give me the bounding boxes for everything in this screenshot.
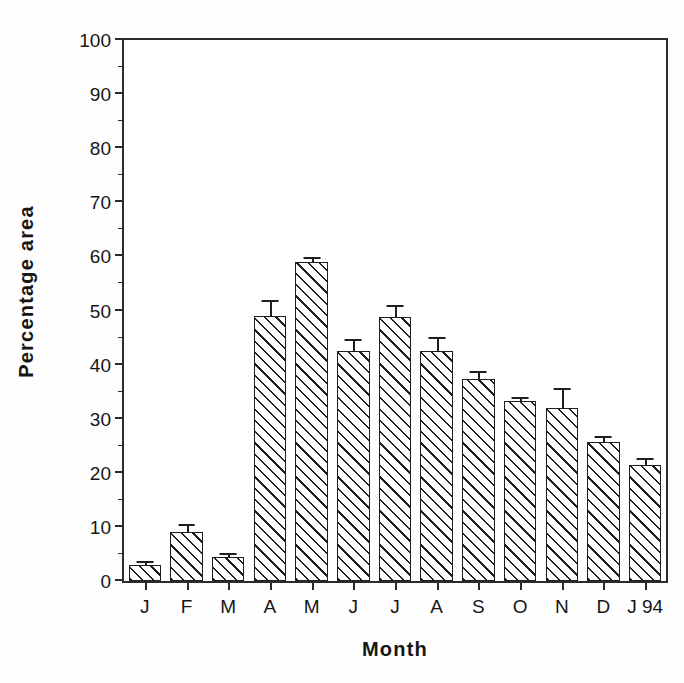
y-axis-tick-label: 30 — [90, 409, 111, 428]
bar — [420, 351, 453, 581]
bar — [379, 317, 412, 581]
y-axis-tick-label: 90 — [90, 85, 111, 104]
x-axis-tick — [478, 581, 480, 590]
error-bar-cap — [595, 436, 612, 438]
error-bar-cap — [303, 257, 320, 259]
y-axis-tick-major — [115, 254, 124, 256]
bar — [504, 401, 537, 581]
x-axis-tick-label: F — [181, 597, 193, 616]
y-axis-tick-label: 70 — [90, 193, 111, 212]
y-axis-tick-major — [115, 417, 124, 419]
error-bar-stem — [603, 438, 605, 442]
error-bar-stem — [187, 526, 189, 531]
plot-area: 0102030405060708090100JFMAMJJASONDJ 94 — [122, 38, 668, 583]
x-axis-title: Month — [122, 638, 668, 661]
error-bar-stem — [353, 341, 355, 351]
error-bar-cap — [637, 458, 654, 460]
y-axis-tick-minor — [118, 445, 124, 446]
x-axis-tick-label: S — [472, 597, 485, 616]
error-bar-cap — [428, 337, 445, 339]
y-axis-tick-minor — [118, 120, 124, 121]
bar — [254, 316, 287, 581]
x-axis-tick-label: J — [140, 597, 150, 616]
error-bar-stem — [437, 339, 439, 350]
x-axis-tick-label: D — [597, 597, 611, 616]
x-axis-tick-label: J — [349, 597, 359, 616]
y-axis-tick-label: 100 — [79, 31, 111, 50]
error-bar-cap — [261, 300, 278, 302]
error-bar-stem — [312, 259, 314, 262]
error-bar-cap — [470, 371, 487, 373]
y-axis-tick-label: 40 — [90, 355, 111, 374]
error-bar-cap — [512, 397, 529, 399]
x-axis-tick-label: J 94 — [627, 597, 663, 616]
y-axis-tick-minor — [118, 553, 124, 554]
y-axis-tick-label: 10 — [90, 517, 111, 536]
y-axis-tick-label: 0 — [100, 572, 111, 591]
y-axis-tick-major — [115, 92, 124, 94]
x-axis-tick — [312, 581, 314, 590]
y-axis-tick-major — [115, 471, 124, 473]
x-axis-tick-label: J — [390, 597, 400, 616]
y-axis-tick-label: 60 — [90, 247, 111, 266]
error-bar-stem — [270, 302, 272, 316]
bar — [295, 262, 328, 581]
y-axis-tick-minor — [118, 337, 124, 338]
error-bar-cap — [136, 561, 153, 563]
x-axis-tick-label: N — [555, 597, 569, 616]
y-axis-tick-major — [115, 200, 124, 202]
x-axis-tick — [228, 581, 230, 590]
error-bar-cap — [345, 339, 362, 341]
bar — [629, 465, 662, 581]
error-bar-stem — [645, 460, 647, 464]
x-axis-tick — [645, 581, 647, 590]
bar-chart-figure: Percentage area 0102030405060708090100JF… — [0, 0, 684, 683]
x-axis-tick — [270, 581, 272, 590]
y-axis-tick-major — [115, 579, 124, 581]
bar — [337, 351, 370, 581]
y-axis-tick-minor — [118, 282, 124, 283]
error-bar-stem — [228, 555, 230, 557]
error-bar-stem — [520, 399, 522, 402]
y-axis-tick-label: 20 — [90, 463, 111, 482]
y-axis-tick-major — [115, 146, 124, 148]
x-axis-tick-label: M — [220, 597, 236, 616]
x-axis-tick — [187, 581, 189, 590]
x-axis-tick-label: A — [430, 597, 443, 616]
error-bar-cap — [178, 524, 195, 526]
y-axis-tick-major — [115, 38, 124, 40]
bar — [462, 379, 495, 581]
error-bar-stem — [145, 563, 147, 565]
x-axis-tick — [395, 581, 397, 590]
x-axis-tick — [520, 581, 522, 590]
y-axis-tick-label: 80 — [90, 139, 111, 158]
y-axis-tick-minor — [118, 499, 124, 500]
x-axis-tick-label: A — [264, 597, 277, 616]
x-axis-tick-label: M — [304, 597, 320, 616]
x-axis-tick-label: O — [513, 597, 528, 616]
y-axis-tick-minor — [118, 391, 124, 392]
bar — [212, 557, 245, 581]
error-bar-stem — [562, 390, 564, 408]
x-axis-tick — [437, 581, 439, 590]
x-axis-tick — [145, 581, 147, 590]
error-bar-cap — [387, 305, 404, 307]
y-axis-tick-minor — [118, 174, 124, 175]
error-bar-cap — [553, 388, 570, 390]
x-axis-tick — [562, 581, 564, 590]
bar — [587, 442, 620, 581]
bar — [170, 532, 203, 581]
x-axis-tick — [603, 581, 605, 590]
x-axis-tick — [353, 581, 355, 590]
y-axis-tick-major — [115, 525, 124, 527]
error-bar-stem — [478, 373, 480, 379]
y-axis-tick-major — [115, 309, 124, 311]
error-bar-cap — [220, 553, 237, 555]
y-axis-title-text: Percentage area — [15, 205, 38, 378]
bar — [129, 565, 162, 581]
y-axis-tick-major — [115, 363, 124, 365]
error-bar-stem — [395, 307, 397, 317]
y-axis-tick-label: 50 — [90, 301, 111, 320]
bar — [546, 408, 579, 581]
y-axis-title: Percentage area — [6, 0, 46, 583]
